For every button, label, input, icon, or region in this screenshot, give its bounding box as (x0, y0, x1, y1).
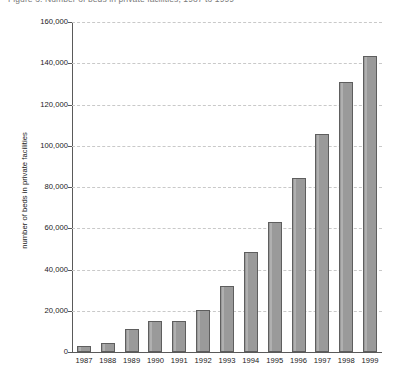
y-tick-label: 160,000 (8, 17, 68, 26)
bar-1987 (77, 346, 91, 352)
gridline-0 (72, 352, 382, 353)
y-tick-label: 60,000 (8, 223, 68, 232)
bar-series (72, 22, 382, 352)
bar-1993 (220, 286, 234, 352)
bar-1990 (148, 321, 162, 352)
bar-1989 (125, 329, 139, 352)
bar-1995 (268, 222, 282, 352)
x-tick-label-1999: 1999 (354, 356, 386, 365)
y-tick-0 (68, 352, 72, 353)
y-axis-tick-labels: 020,00040,00060,00080,000100,000120,0001… (4, 22, 68, 352)
bar-1991 (172, 321, 186, 352)
bar-1997 (315, 134, 329, 352)
x-axis-tick-labels: 1987198819891990199119921993199419951996… (72, 356, 382, 370)
bar-1992 (196, 310, 210, 352)
bar-1994 (244, 252, 258, 352)
plot-area (72, 22, 382, 352)
y-tick-label: 100,000 (8, 141, 68, 150)
bar-1999 (363, 56, 377, 352)
figure-title: Figure 3. Number of beds in private faci… (8, 0, 234, 4)
y-tick-label: 80,000 (8, 182, 68, 191)
bar-1998 (339, 82, 353, 352)
bar-1996 (292, 178, 306, 352)
cut-off-title-strip: Figure 3. Number of beds in private faci… (0, 0, 402, 7)
y-tick-label: 120,000 (8, 100, 68, 109)
y-tick-label: 40,000 (8, 265, 68, 274)
y-tick-label: 20,000 (8, 306, 68, 315)
bar-1988 (101, 343, 115, 352)
y-tick-label: 0 (8, 347, 68, 356)
y-tick-label: 140,000 (8, 58, 68, 67)
bar-chart-figure: Figure 3. Number of beds in private faci… (0, 0, 402, 391)
